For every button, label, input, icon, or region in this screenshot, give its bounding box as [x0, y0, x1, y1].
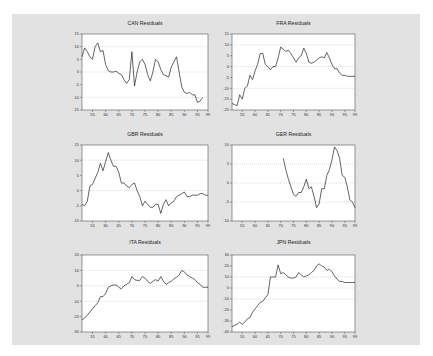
x-tick-label: 65	[266, 223, 271, 228]
y-tick-label: 0	[77, 283, 80, 288]
y-tick-label: -30	[223, 318, 230, 323]
x-tick-label: 99	[353, 334, 358, 339]
y-tick-label: 20	[75, 252, 80, 257]
y-tick-label: 0	[227, 180, 230, 185]
x-tick-label: 60	[103, 334, 108, 339]
y-tick-label: -5	[225, 75, 229, 80]
x-tick-label: 55	[240, 223, 245, 228]
y-tick-label: 10	[225, 142, 230, 147]
x-tick-label: 65	[117, 223, 122, 228]
y-tick-label: -10	[223, 218, 230, 223]
plot-area	[82, 255, 208, 332]
x-tick-label: 70	[130, 112, 135, 117]
x-tick-label: 85	[317, 334, 322, 339]
y-tick-label: 15	[75, 142, 80, 147]
x-tick-label: 90	[330, 223, 335, 228]
chart-jpn: JPN Residuals3020100-10-20-30-4055606570…	[223, 239, 358, 339]
x-tick-label: 95	[195, 223, 200, 228]
x-tick-label: 65	[266, 334, 271, 339]
x-tick-label: 80	[304, 223, 309, 228]
x-tick-label: 95	[343, 334, 348, 339]
x-tick-label: 60	[253, 334, 258, 339]
y-tick-label: -20	[223, 307, 230, 312]
x-tick-label: 99	[353, 112, 358, 117]
y-tick-label: -15	[223, 96, 230, 101]
y-tick-label: 10	[225, 274, 230, 279]
x-tick-label: 95	[195, 112, 200, 117]
y-tick-label: -40	[223, 329, 230, 334]
x-tick-label: 75	[291, 334, 296, 339]
plot-area	[232, 34, 355, 110]
x-tick-label: 60	[103, 223, 108, 228]
y-tick-label: -10	[73, 218, 80, 223]
y-tick-label: -10	[223, 86, 230, 91]
x-tick-label: 70	[278, 334, 283, 339]
y-tick-label: -10	[73, 95, 80, 100]
x-tick-label: 55	[240, 112, 245, 117]
x-tick-label: 90	[182, 334, 187, 339]
x-tick-label: 60	[103, 112, 108, 117]
y-tick-label: 0	[227, 285, 230, 290]
x-tick-label: 55	[90, 223, 95, 228]
y-tick-label: 5	[227, 53, 230, 58]
x-tick-label: 90	[330, 334, 335, 339]
y-tick-label: 20	[225, 263, 230, 268]
x-tick-label: 85	[169, 112, 174, 117]
x-tick-label: 90	[330, 112, 335, 117]
y-tick-label: 15	[225, 31, 230, 36]
x-tick-label: 65	[117, 334, 122, 339]
y-tick-label: 10	[75, 158, 80, 163]
x-tick-label: 95	[195, 334, 200, 339]
x-tick-label: 75	[143, 334, 148, 339]
chart-ger: GER Residuals1050-5-10556065707580859095…	[223, 131, 358, 228]
x-tick-label: 80	[156, 112, 161, 117]
y-tick-label: 30	[225, 252, 230, 257]
x-tick-label: 95	[343, 112, 348, 117]
x-tick-label: 65	[266, 112, 271, 117]
y-tick-label: 0	[227, 64, 230, 69]
x-tick-label: 65	[117, 112, 122, 117]
y-tick-label: -10	[223, 296, 230, 301]
x-tick-label: 90	[182, 112, 187, 117]
x-tick-label: 90	[182, 223, 187, 228]
y-tick-label: 15	[75, 31, 80, 36]
x-tick-label: 60	[253, 112, 258, 117]
y-tick-label: -5	[75, 82, 79, 87]
y-tick-label: -20	[73, 314, 80, 319]
x-tick-label: 60	[253, 223, 258, 228]
chart-title: GER Residuals	[276, 131, 312, 137]
x-tick-label: 70	[130, 223, 135, 228]
y-tick-label: 5	[77, 57, 80, 62]
y-tick-label: 10	[225, 42, 230, 47]
x-tick-label: 99	[206, 334, 211, 339]
chart-title: CAN Residuals	[127, 20, 163, 26]
x-tick-label: 55	[90, 112, 95, 117]
y-tick-label: -10	[73, 299, 80, 304]
x-tick-label: 80	[304, 112, 309, 117]
y-tick-label: 0	[77, 69, 80, 74]
chart-title: ITA Residuals	[129, 239, 161, 245]
x-tick-label: 70	[278, 112, 283, 117]
x-tick-label: 99	[206, 112, 211, 117]
x-tick-label: 55	[240, 334, 245, 339]
residual-charts-grid: CAN Residuals151050-5-10-155560657075808…	[0, 0, 433, 356]
x-tick-label: 80	[156, 223, 161, 228]
x-tick-label: 75	[291, 112, 296, 117]
y-tick-label: -5	[75, 203, 79, 208]
x-tick-label: 85	[317, 223, 322, 228]
x-tick-label: 55	[90, 334, 95, 339]
y-tick-label: -20	[223, 107, 230, 112]
x-tick-label: 80	[156, 334, 161, 339]
y-tick-label: -5	[225, 199, 229, 204]
plot-area	[82, 145, 208, 221]
x-tick-label: 75	[291, 223, 296, 228]
y-tick-label: 5	[227, 161, 230, 166]
x-tick-label: 85	[169, 334, 174, 339]
x-tick-label: 99	[353, 223, 358, 228]
y-tick-label: -15	[73, 107, 80, 112]
x-tick-label: 75	[143, 112, 148, 117]
x-tick-label: 99	[206, 223, 211, 228]
y-tick-label: 10	[75, 268, 80, 273]
chart-can: CAN Residuals151050-5-10-155560657075808…	[73, 20, 211, 117]
x-tick-label: 85	[169, 223, 174, 228]
